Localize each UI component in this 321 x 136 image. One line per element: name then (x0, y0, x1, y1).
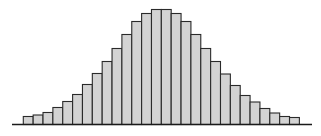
histogram-bar (92, 74, 102, 125)
histogram-bar (260, 109, 270, 125)
histogram-bar (250, 102, 260, 125)
histogram-bar (221, 74, 231, 125)
histogram-bar (171, 14, 181, 125)
histogram-bar (73, 95, 83, 125)
histogram-bar (280, 117, 290, 125)
histogram-bar (240, 96, 250, 125)
histogram-bar (181, 22, 191, 125)
histogram-bar (230, 86, 240, 125)
histogram-bar (201, 49, 211, 125)
histogram-bar (33, 115, 43, 125)
histogram-bar (82, 85, 92, 125)
histogram-bar (191, 35, 201, 125)
histogram-bar (63, 102, 73, 125)
histogram-bar (142, 14, 152, 125)
histogram-bar (122, 35, 132, 125)
histogram-bar (102, 62, 112, 125)
histogram-bars (23, 10, 299, 125)
histogram-bar (53, 108, 63, 125)
histogram-bar (270, 113, 280, 125)
histogram-bar (43, 113, 53, 125)
histogram-bar (290, 118, 300, 125)
histogram-bar (132, 22, 142, 125)
histogram-bar (211, 62, 221, 125)
histogram-chart (0, 0, 321, 136)
histogram-bar (161, 10, 171, 125)
histogram-bar (112, 49, 122, 125)
histogram-bar (23, 117, 33, 125)
histogram-bar (151, 10, 161, 125)
